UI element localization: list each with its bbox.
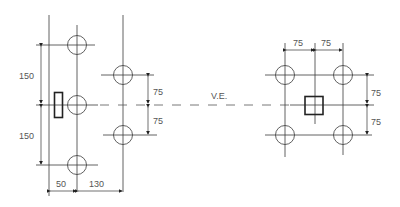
dimension-label: 130 — [89, 179, 104, 189]
dimension-label: 150 — [19, 131, 34, 141]
dimension-label: 75 — [371, 88, 381, 98]
dimension-label: 75 — [153, 87, 163, 97]
column-square — [305, 97, 323, 115]
left-pile-group: 150 150 50 130 — [19, 15, 122, 196]
dimension-label: 75 — [293, 38, 303, 48]
dimension-label: 150 — [19, 71, 34, 81]
right-pile-group: 75 75 75 75 — [265, 38, 381, 157]
dimension-label: 75 — [153, 116, 163, 126]
dimension-label: 75 — [371, 117, 381, 127]
middle-pile-group: 75 75 — [101, 15, 163, 192]
dimension-label: 75 — [321, 38, 331, 48]
ve-label: V.E. — [211, 91, 227, 101]
pile-layout-diagram: 150 150 50 130 75 75 V.E. — [0, 0, 400, 207]
dimension-label: 50 — [56, 179, 66, 189]
